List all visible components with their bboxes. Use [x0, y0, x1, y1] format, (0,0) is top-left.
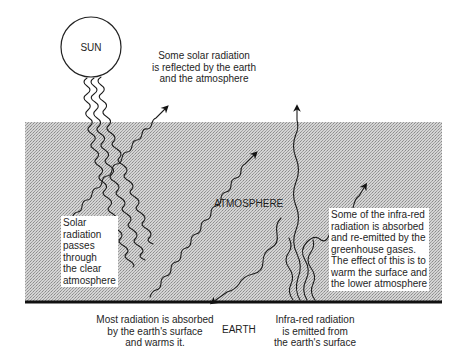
infrared-line-1: Infra-red radiation	[263, 314, 367, 326]
earth-label: EARTH	[222, 324, 256, 336]
absorbed-line-1: Most radiation is absorbed	[90, 314, 220, 326]
passes-line-1: Solar	[63, 217, 116, 229]
atmosphere-label: ATMOSPHERE	[214, 198, 283, 210]
greenhouse-line-5: The effect of this is to	[331, 255, 427, 267]
passes-line-2: radiation	[63, 229, 116, 241]
greenhouse-annotation: Some of the infra-red radiation is absor…	[329, 208, 429, 291]
reflected-line-1: Some solar radiation	[146, 50, 262, 62]
absorbed-annotation: Most radiation is absorbed by the earth'…	[90, 314, 220, 349]
infrared-line-2: is emitted from	[263, 326, 367, 338]
absorbed-line-2: by the earth's surface	[90, 326, 220, 338]
greenhouse-effect-diagram: SUN Some solar radiation is reflected by…	[0, 0, 463, 357]
passes-annotation: Solar radiation passes through the clear…	[61, 216, 118, 287]
greenhouse-line-3: and re-emitted by the	[331, 232, 427, 244]
absorbed-line-3: and warms it.	[90, 337, 220, 349]
greenhouse-line-1: Some of the infra-red	[331, 209, 427, 221]
reflected-line-2: is reflected by the earth	[146, 62, 262, 74]
passes-line-5: the clear	[63, 263, 116, 275]
greenhouse-line-2: radiation is absorbed	[331, 221, 427, 233]
greenhouse-line-7: the lower atmosphere	[331, 278, 427, 290]
infrared-line-3: the earth's surface	[263, 337, 367, 349]
passes-line-6: atmosphere	[63, 275, 116, 287]
greenhouse-line-6: warm the surface and	[331, 267, 427, 279]
infrared-emitted-annotation: Infra-red radiation is emitted from the …	[263, 314, 367, 349]
sun-label: SUN	[76, 42, 106, 54]
reflected-annotation: Some solar radiation is reflected by the…	[146, 50, 262, 85]
passes-line-3: passes	[63, 240, 116, 252]
greenhouse-line-4: greenhouse gases.	[331, 244, 427, 256]
passes-line-4: through	[63, 252, 116, 264]
reflected-line-3: and the atmosphere	[146, 73, 262, 85]
